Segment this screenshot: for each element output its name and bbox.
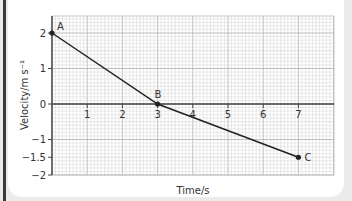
y-axis-title: Velocity/m s⁻¹ [19,60,30,130]
x-tick-label: 5 [225,109,231,120]
x-axis-title: Time/s [175,185,209,196]
velocity-time-graph: 1234567210−1−1.5−2 ABC Time/s Velocity/m… [0,0,352,201]
y-tick-label: 1 [40,63,46,74]
data-point [155,101,160,106]
y-tick-label: −1.5 [22,152,46,163]
x-tick-label: 6 [260,109,266,120]
y-tick-label: 2 [40,28,46,39]
point-label: A [57,21,64,32]
x-tick-label: 7 [295,109,301,120]
data-point [49,30,54,35]
x-tick-label: 1 [84,109,90,120]
point-label: B [155,89,162,100]
graph-paper-grid [52,16,334,175]
y-tick-label: −2 [31,170,46,181]
y-tick-label: 0 [40,99,46,110]
data-point [296,155,301,160]
y-tick-label: −1 [31,134,46,145]
x-tick-label: 3 [154,109,160,120]
x-tick-label: 2 [119,109,125,120]
point-label: C [304,152,311,163]
data-series: ABC [49,21,311,163]
